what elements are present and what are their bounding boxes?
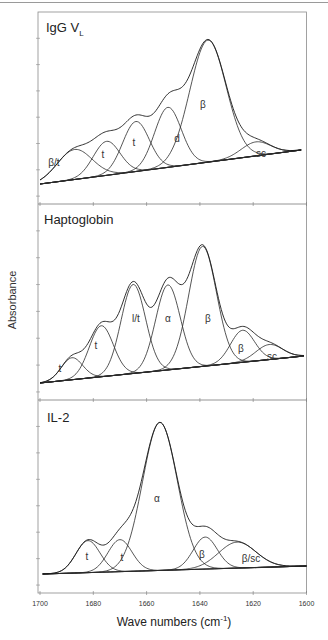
component-band: [40, 284, 304, 383]
component-band: [40, 330, 304, 383]
component-band: [43, 422, 307, 574]
composite-spectrum: [40, 39, 301, 180]
composite-spectrum: [43, 422, 307, 574]
component-band: [43, 537, 307, 574]
x-axis-label-text: Wave numbers (cm: [117, 615, 221, 629]
peak-label: l/t: [132, 313, 140, 324]
peak-label: d: [174, 133, 180, 144]
plot-frame: [36, 12, 307, 595]
peak-label: β/t: [48, 157, 59, 168]
y-axis-label: Absorbance: [6, 271, 18, 330]
component-band: [40, 246, 304, 383]
x-tick-label: 1700: [32, 600, 48, 607]
peak-label: t: [59, 363, 62, 374]
panel-title-igg: IgG VL: [46, 20, 84, 38]
spectral-curves: [40, 39, 307, 574]
panel-title-haptoglobin: Haptoglobin: [44, 212, 113, 227]
component-band: [43, 542, 307, 574]
peak-label: β/sc: [242, 553, 261, 564]
component-band: [40, 344, 304, 383]
peak-label: t: [121, 552, 124, 563]
peak-label: t: [95, 340, 98, 351]
peak-label: sc: [256, 148, 266, 159]
peak-label: sc: [267, 351, 277, 362]
x-axis-label: Wave numbers (cm-1): [0, 614, 328, 629]
peak-label: β: [200, 99, 206, 110]
peak-label: α: [154, 493, 160, 504]
peak-label: t: [86, 551, 89, 562]
peak-label: β: [199, 549, 205, 560]
component-band: [40, 40, 301, 184]
frame-border: [38, 12, 307, 593]
component-band: [40, 326, 304, 383]
peak-label: t: [102, 149, 105, 160]
x-tick-label: 1680: [86, 600, 102, 607]
peak-label: α: [165, 313, 171, 324]
panel-title-text: IgG V: [46, 20, 79, 35]
x-tick-label: 1600: [299, 600, 315, 607]
x-axis-label-close: ): [227, 615, 231, 629]
panel-title-subscript: L: [79, 29, 83, 38]
x-tick-label: 1640: [192, 600, 208, 607]
peak-label: β: [238, 343, 244, 354]
ftir-spectra-figure: [0, 0, 328, 640]
x-tick-label: 1660: [139, 600, 155, 607]
x-tick-label: 1620: [245, 600, 261, 607]
peak-label: t: [133, 137, 136, 148]
peak-label: β: [205, 313, 211, 324]
panel-title-il2: IL-2: [47, 410, 69, 425]
